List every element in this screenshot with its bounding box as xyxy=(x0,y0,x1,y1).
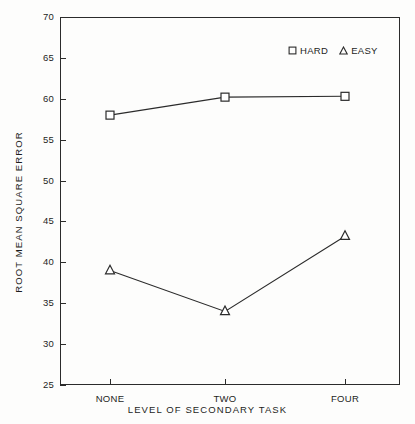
y-tick-label: 50 xyxy=(24,176,54,186)
y-tick-label: 65 xyxy=(24,53,54,63)
legend-entry-hard: HARD xyxy=(288,46,328,56)
legend-entry-easy: EASY xyxy=(339,46,378,56)
y-tick-label: 25 xyxy=(24,380,54,390)
y-tick-mark xyxy=(60,181,66,182)
x-tick-label: TWO xyxy=(190,394,260,404)
chart-figure: 25303540455055606570 NONETWOFOUR HARD EA… xyxy=(0,0,415,424)
y-tick-mark xyxy=(60,99,66,100)
y-tick-label: 35 xyxy=(24,298,54,308)
y-tick-mark xyxy=(60,221,66,222)
y-tick-label: 70 xyxy=(24,12,54,22)
y-tick-mark xyxy=(60,385,66,386)
y-tick-mark xyxy=(60,58,66,59)
y-tick-mark xyxy=(60,17,66,18)
triangle-open-marker-icon xyxy=(339,46,348,55)
y-tick-label: 40 xyxy=(24,257,54,267)
x-tick-mark xyxy=(225,379,226,385)
x-tick-label: NONE xyxy=(75,394,145,404)
x-axis-title: LEVEL OF SECONDARY TASK xyxy=(0,404,415,415)
legend-label-hard: HARD xyxy=(300,46,328,56)
y-tick-label: 60 xyxy=(24,94,54,104)
y-tick-mark xyxy=(60,344,66,345)
x-tick-label: FOUR xyxy=(310,394,380,404)
y-tick-mark xyxy=(60,303,66,304)
y-axis-title: ROOT MEAN SQUARE ERROR xyxy=(13,131,24,292)
x-tick-mark xyxy=(345,379,346,385)
y-axis-title-wrap: ROOT MEAN SQUARE ERROR xyxy=(10,0,26,424)
y-tick-mark xyxy=(60,140,66,141)
square-open-marker-icon xyxy=(288,46,297,55)
y-tick-mark xyxy=(60,262,66,263)
y-tick-label: 30 xyxy=(24,339,54,349)
y-tick-label: 45 xyxy=(24,216,54,226)
x-tick-mark xyxy=(110,379,111,385)
y-tick-label: 55 xyxy=(24,135,54,145)
plot-area xyxy=(60,17,400,385)
legend-label-easy: EASY xyxy=(351,46,378,56)
chart-legend: HARD EASY xyxy=(288,46,378,56)
